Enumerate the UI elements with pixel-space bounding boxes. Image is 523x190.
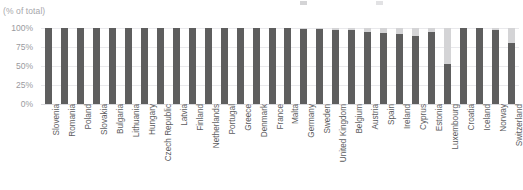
bar-column[interactable] xyxy=(476,28,483,104)
bar-column[interactable] xyxy=(364,28,371,104)
x-axis-tick-label: Switzerland xyxy=(515,104,523,188)
x-axis-tick-label: Czech Republic xyxy=(164,104,173,188)
bar-segment-primary xyxy=(253,28,260,104)
x-axis-tick-label: Spain xyxy=(387,104,396,188)
chart-legend xyxy=(0,0,523,5)
legend-swatch xyxy=(300,1,307,5)
bar-segment-primary xyxy=(396,34,403,104)
plot-area: 0%25%50%75%100% xyxy=(41,28,519,104)
bar-chart: (% of total) 0%25%50%75%100% SloveniaRom… xyxy=(0,0,523,190)
x-axis-tick-label: Belgium xyxy=(355,104,364,188)
bar-column[interactable] xyxy=(508,28,515,104)
bar-segment-primary xyxy=(348,30,355,104)
y-axis-tick-label: 100% xyxy=(0,24,33,32)
x-axis-tick-label: Iceland xyxy=(483,104,492,188)
bar-column[interactable] xyxy=(77,28,84,104)
bar-segment-primary xyxy=(508,43,515,104)
bar-column[interactable] xyxy=(428,28,435,104)
bar-segment-primary xyxy=(364,32,371,104)
x-axis-tick-label: Malta xyxy=(291,104,300,188)
bar-column[interactable] xyxy=(125,28,132,104)
x-axis-tick-label: Sweden xyxy=(323,104,332,188)
bar-segment-primary xyxy=(380,33,387,104)
x-axis-tick-label: Romania xyxy=(68,104,77,188)
legend-swatch xyxy=(376,1,383,5)
x-axis-tick-label: Slovenia xyxy=(52,104,61,188)
bar-segment-primary xyxy=(205,28,212,104)
x-axis-tick-label: Germany xyxy=(307,104,316,188)
x-axis-tick-label: Portugal xyxy=(228,104,237,188)
bar-segment-primary xyxy=(444,64,451,104)
bar-segment-primary xyxy=(316,29,323,104)
bar-column[interactable] xyxy=(93,28,100,104)
x-axis-tick-label: Bulgaria xyxy=(116,104,125,188)
bar-segment-primary xyxy=(221,28,228,104)
bar-segment-primary xyxy=(300,29,307,104)
bar-segment-primary xyxy=(77,28,84,104)
bar-column[interactable] xyxy=(396,28,403,104)
bar-segment-primary xyxy=(237,28,244,104)
bar-segment-primary xyxy=(269,28,276,104)
x-axis-tick-label: Norway xyxy=(499,104,508,188)
x-axis-tick-label: Latvia xyxy=(180,104,189,188)
bar-segment-primary xyxy=(412,36,419,104)
bar-column[interactable] xyxy=(460,28,467,104)
x-axis-tick-label: Ireland xyxy=(403,104,412,188)
bar-column[interactable] xyxy=(205,28,212,104)
bar-segment-primary xyxy=(284,28,291,104)
x-axis-tick-label: Cyprus xyxy=(419,104,428,188)
bar-column[interactable] xyxy=(412,28,419,104)
x-axis-tick-label: Estonia xyxy=(435,104,444,188)
x-axis-tick-label: Hungary xyxy=(148,104,157,188)
bar-column[interactable] xyxy=(61,28,68,104)
bar-column[interactable] xyxy=(157,28,164,104)
bar-column[interactable] xyxy=(173,28,180,104)
bar-series xyxy=(41,28,519,104)
axis-subtitle: (% of total) xyxy=(3,6,45,16)
x-axis-tick-label: Luxembourg xyxy=(451,104,460,188)
bar-column[interactable] xyxy=(380,28,387,104)
x-axis-tick-label: Denmark xyxy=(260,104,269,188)
x-axis-tick-label: United Kingdom xyxy=(339,104,348,188)
bar-column[interactable] xyxy=(444,28,451,104)
bar-column[interactable] xyxy=(492,28,499,104)
bar-column[interactable] xyxy=(284,28,291,104)
bar-segment-primary xyxy=(492,30,499,104)
bar-segment-primary xyxy=(141,28,148,104)
bar-segment-primary xyxy=(61,28,68,104)
bar-column[interactable] xyxy=(109,28,116,104)
x-axis-tick-label: Netherlands xyxy=(212,104,221,188)
x-axis-tick-label: Croatia xyxy=(467,104,476,188)
bar-segment-primary xyxy=(460,28,467,104)
bar-segment-primary xyxy=(173,28,180,104)
bar-segment-primary xyxy=(45,28,52,104)
bar-segment-primary xyxy=(476,28,483,104)
x-axis-labels: SloveniaRomaniaPolandSlovakiaBulgariaLit… xyxy=(41,106,519,190)
bar-column[interactable] xyxy=(269,28,276,104)
bar-segment-primary xyxy=(332,30,339,104)
x-axis-tick-label: Finland xyxy=(196,104,205,188)
bar-column[interactable] xyxy=(221,28,228,104)
y-axis-tick-label: 0% xyxy=(0,100,33,108)
y-axis-tick-label: 25% xyxy=(0,81,33,89)
x-axis-tick-label: Austria xyxy=(371,104,380,188)
bar-segment-primary xyxy=(428,32,435,104)
bar-column[interactable] xyxy=(237,28,244,104)
bar-segment-primary xyxy=(157,28,164,104)
bar-column[interactable] xyxy=(348,28,355,104)
bar-segment-primary xyxy=(93,28,100,104)
bar-column[interactable] xyxy=(316,28,323,104)
bar-column[interactable] xyxy=(189,28,196,104)
x-axis-tick-label: Slovakia xyxy=(100,104,109,188)
bar-segment-primary xyxy=(125,28,132,104)
bar-column[interactable] xyxy=(45,28,52,104)
bar-segment-primary xyxy=(109,28,116,104)
bar-column[interactable] xyxy=(141,28,148,104)
bar-column[interactable] xyxy=(253,28,260,104)
x-axis-tick-label: Greece xyxy=(244,104,253,188)
bar-column[interactable] xyxy=(300,28,307,104)
bar-column[interactable] xyxy=(332,28,339,104)
y-axis-tick-label: 50% xyxy=(0,62,33,70)
y-axis-tick-label: 75% xyxy=(0,43,33,51)
x-axis-tick-label: Poland xyxy=(84,104,93,188)
